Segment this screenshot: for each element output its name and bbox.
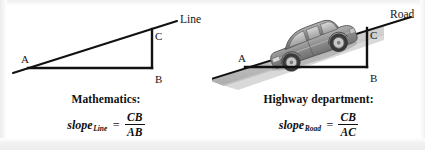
formula-numerator: CB: [340, 111, 357, 123]
diagram-road-triangle: A B C Road: [212, 4, 425, 92]
diagram-line-triangle: A B C Line: [0, 4, 212, 92]
panel-highway-department: A B C Road Highway department: slopeRoad…: [212, 0, 425, 150]
formula-equals: =: [326, 118, 333, 133]
caption-highway-department: Highway department:: [212, 93, 425, 105]
formula-subject: slope: [67, 118, 92, 133]
formula-subscript: Line: [93, 124, 107, 133]
vertex-label-b: B: [155, 74, 163, 85]
formula-fraction: CB AB: [125, 111, 145, 138]
caption-mathematics: Mathematics:: [0, 93, 212, 105]
formula-fraction-bar: [125, 124, 145, 125]
formula-denominator: AC: [340, 126, 357, 138]
vertex-label-c: C: [155, 31, 163, 42]
formula-equals: =: [113, 118, 120, 133]
panel-mathematics: A B C Line Mathematics: slopeLine = CB A…: [0, 0, 212, 150]
vertex-label-b: B: [370, 73, 378, 84]
formula-slope-road: slopeRoad = CB AC: [212, 112, 425, 139]
vertex-label-a: A: [238, 53, 246, 64]
formula-numerator: CB: [126, 111, 143, 123]
formula-fraction: CB AC: [338, 111, 358, 138]
formula-subject: slope: [279, 118, 304, 133]
formula-denominator: AB: [126, 126, 143, 138]
ray-label-line: Line: [180, 14, 201, 26]
formula-fraction-bar: [338, 124, 358, 125]
formula-slope-line: slopeLine = CB AB: [0, 112, 212, 139]
vertex-label-c: C: [370, 30, 378, 41]
formula-subscript: Road: [305, 124, 321, 133]
slope-comparison-figure: A B C Line Mathematics: slopeLine = CB A…: [0, 0, 425, 150]
ray-label-road: Road: [390, 9, 414, 21]
vertex-label-a: A: [21, 54, 29, 65]
